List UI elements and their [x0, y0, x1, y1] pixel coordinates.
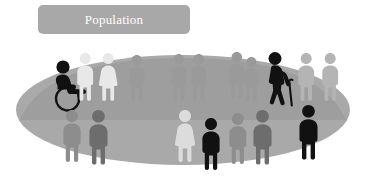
population-label-text: Population: [85, 13, 143, 26]
population-label-banner: Population: [38, 5, 190, 34]
population-illustration: Population: [0, 0, 365, 178]
